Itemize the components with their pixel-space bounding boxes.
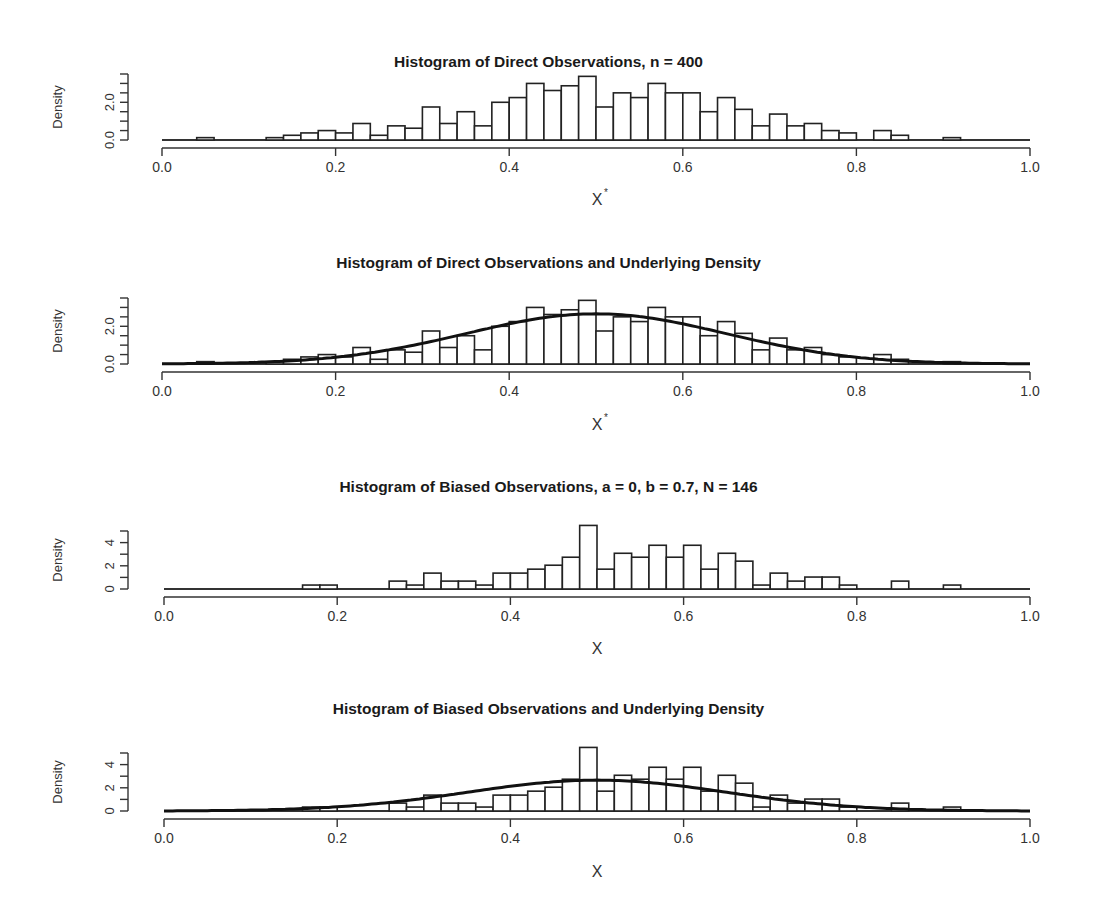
y-tick-label: 4 (102, 761, 117, 768)
histogram-bar (389, 803, 406, 811)
x-tick-label: 1.0 (1020, 830, 1040, 846)
x-tick-label: 0.4 (501, 830, 521, 846)
x-axis-label: X (592, 863, 603, 880)
histogram-bar (753, 807, 770, 811)
x-tick-label: 0.6 (674, 830, 694, 846)
y-tick-label: 2 (102, 784, 117, 791)
histogram-bar (476, 807, 493, 811)
y-tick-label: 0 (102, 807, 117, 814)
histogram-bar (632, 779, 649, 811)
histogram-bar (528, 791, 545, 811)
histogram-plot: 0.00.20.40.60.81.0X024Density (0, 0, 1097, 920)
histogram-bar (649, 767, 666, 811)
histogram-bar (788, 803, 805, 811)
histogram-bar (562, 779, 579, 811)
histogram-bar (597, 791, 614, 811)
y-axis-label: Density (50, 760, 65, 804)
x-tick-label: 0.2 (327, 830, 347, 846)
histogram-bar (545, 787, 562, 811)
histogram-bar (493, 795, 510, 811)
histogram-bar (701, 791, 718, 811)
histogram-bar (458, 803, 475, 811)
x-tick-label: 0.0 (154, 830, 174, 846)
histogram-bar (510, 795, 527, 811)
x-tick-label: 0.8 (847, 830, 867, 846)
histogram-bar (406, 807, 423, 811)
histogram-bar (441, 803, 458, 811)
